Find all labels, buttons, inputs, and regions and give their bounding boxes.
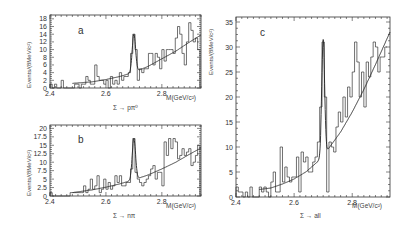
panel-c-xlabel: M(GeV/c²) xyxy=(352,202,382,210)
y-tick-label: 14 xyxy=(39,31,47,38)
panel-c-ylabel: Events/(8MeV/c²) xyxy=(208,29,214,75)
y-tick-label: 12 xyxy=(39,38,47,45)
y-tick-label: 0 xyxy=(43,85,47,92)
y-tick-label: 17.5 xyxy=(33,133,47,140)
panel-b-ylabel: Events/(8MeV/c²) xyxy=(26,150,32,196)
panel-c-decay-label: Σ → all xyxy=(300,212,321,219)
y-tick-label: 6 xyxy=(43,61,47,68)
y-tick-label: 2.5 xyxy=(37,184,47,191)
y-tick-label: 5 xyxy=(229,169,233,176)
y-tick-label: 5 xyxy=(43,176,47,183)
panel-a-chart: 2.42.62.8024681012141618 xyxy=(39,15,201,97)
panel-c-chart: 2.42.62.805101520253035 xyxy=(225,17,390,206)
y-tick-label: 12.5 xyxy=(33,150,47,157)
y-tick-label: 10 xyxy=(39,159,47,166)
y-tick-label: 15 xyxy=(39,142,47,149)
histogram xyxy=(50,23,200,88)
y-tick-label: 30 xyxy=(225,44,233,51)
x-tick-label: 2.6 xyxy=(101,90,111,97)
panel-a-xlabel: M(GeV/c²) xyxy=(166,94,196,102)
histogram xyxy=(236,42,387,197)
x-tick-label: 2.6 xyxy=(289,199,299,206)
panel-b-xlabel: M(GeV/c²) xyxy=(166,202,196,210)
panel-a-decay-label: Σ → pπ⁰ xyxy=(113,104,138,112)
panel-b-decay-label: Σ → nπ xyxy=(113,212,136,219)
y-tick-label: 0 xyxy=(43,193,47,200)
y-tick-label: 7.5 xyxy=(37,167,47,174)
plot-frame xyxy=(50,15,201,88)
panel-c-letter: c xyxy=(260,27,265,38)
y-tick-label: 0 xyxy=(229,194,233,201)
y-tick-label: 10 xyxy=(225,144,233,151)
y-tick-label: 20 xyxy=(39,125,47,132)
panel-b-chart: 2.42.62.802.557.51012.51517.520 xyxy=(33,125,201,205)
y-tick-label: 15 xyxy=(225,119,233,126)
panel-a-ylabel: Events/(8MeV/c²) xyxy=(26,42,32,88)
y-tick-label: 18 xyxy=(39,15,47,22)
panel-a-letter: a xyxy=(78,25,84,36)
histogram xyxy=(50,139,200,196)
y-tick-label: 16 xyxy=(39,23,47,30)
y-tick-label: 35 xyxy=(225,19,233,26)
y-tick-label: 25 xyxy=(225,69,233,76)
fit-curve xyxy=(72,139,201,193)
y-tick-label: 4 xyxy=(43,69,47,76)
x-tick-label: 2.6 xyxy=(101,198,111,205)
figure: 2.42.62.8024681012141618 2.42.62.802.557… xyxy=(0,0,410,233)
y-tick-label: 20 xyxy=(225,94,233,101)
y-tick-label: 8 xyxy=(43,54,47,61)
y-tick-label: 10 xyxy=(39,46,47,53)
y-tick-label: 2 xyxy=(43,77,47,84)
panel-b-letter: b xyxy=(78,134,84,145)
